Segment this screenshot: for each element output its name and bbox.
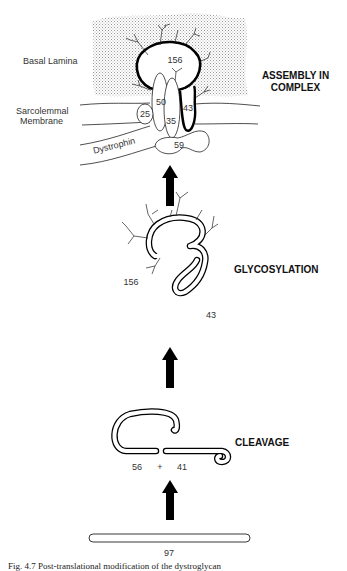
stage-assembly-line2: COMPLEX <box>258 82 333 94</box>
label-35: 35 <box>166 116 176 126</box>
label-50: 50 <box>156 97 166 107</box>
label-97: 97 <box>164 548 174 558</box>
basal-lamina-label: Basal Lamina <box>23 56 78 66</box>
label-56: 56 <box>132 462 142 472</box>
glyco-label-43: 43 <box>206 310 216 320</box>
arrow-up-icon <box>162 347 178 388</box>
stage-glycosylation-label: GLYCOSYLATION <box>234 264 318 276</box>
figure-caption: Fig. 4.7 Post-translational modification… <box>8 561 221 571</box>
plus-sign: + <box>157 462 162 472</box>
stage-assembly-line1: ASSEMBLY IN <box>258 70 333 82</box>
sarcolemmal-label: Sarcolemmal <box>16 106 69 116</box>
label-43: 43 <box>183 103 193 113</box>
membrane-label: Membrane <box>20 116 63 126</box>
stage-cleavage-label: CLEAVAGE <box>235 437 289 449</box>
protein-35 <box>164 78 180 138</box>
label-59: 59 <box>174 140 184 150</box>
stage-assembly-label: ASSEMBLY IN COMPLEX <box>258 70 333 94</box>
cleaved-fragments <box>114 412 228 462</box>
glyco-label-156: 156 <box>123 277 138 287</box>
arrow-up-icon <box>162 480 178 520</box>
label-41: 41 <box>177 462 187 472</box>
label-156: 156 <box>167 55 182 65</box>
arrow-up-icon <box>162 165 178 206</box>
label-25: 25 <box>140 109 150 119</box>
precursor-97 <box>89 534 250 542</box>
